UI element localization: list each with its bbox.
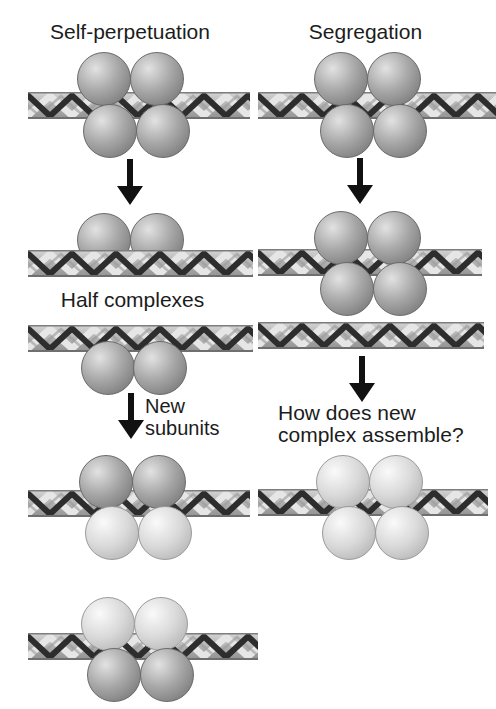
protein-subunit-new: [316, 455, 370, 509]
protein-subunit-old: [133, 341, 187, 395]
protein-subunit-new: [85, 506, 139, 560]
dna-helix-band: [258, 249, 482, 276]
protein-subunit-new: [134, 597, 188, 651]
protein-subunit-old: [373, 104, 427, 158]
protein-subunit-new: [322, 506, 376, 560]
self-perpetuation-title: Self-perpetuation: [10, 21, 250, 43]
down-arrow-icon: [349, 356, 375, 402]
down-arrow-icon: [118, 393, 144, 439]
protein-subunit-old: [87, 648, 141, 702]
protein-subunit-old: [130, 52, 184, 106]
protein-subunit-new: [138, 506, 192, 560]
protein-subunit-old: [314, 52, 368, 106]
dna-helix-band-bare: [258, 322, 484, 349]
down-arrow-icon: [117, 159, 143, 205]
protein-subunit-new: [369, 455, 423, 509]
down-arrow-icon: [347, 158, 373, 204]
protein-subunit-old: [367, 52, 421, 106]
protein-subunit-old: [81, 341, 135, 395]
protein-subunit-old: [132, 455, 186, 509]
protein-subunit-old: [79, 455, 133, 509]
protein-subunit-old: [373, 262, 427, 316]
protein-subunit-old: [367, 211, 421, 265]
segregation-title: Segregation: [258, 21, 473, 43]
figure-epigenetic-inheritance-diagram: Self-perpetuation Segregation Half compl…: [0, 0, 496, 709]
new-subunits-line1: New: [145, 395, 185, 417]
dna-helix-band: [28, 250, 253, 277]
assembly-question-line2: complex assemble?: [278, 423, 464, 446]
assembly-question-line1: How does new: [278, 401, 416, 424]
protein-subunit-new: [81, 597, 135, 651]
protein-subunit-old: [140, 648, 194, 702]
assembly-question-label: How does newcomplex assemble?: [278, 402, 464, 446]
new-subunits-label: Newsubunits: [145, 395, 220, 439]
protein-subunit-new: [375, 506, 429, 560]
new-subunits-line2: subunits: [145, 417, 220, 439]
protein-subunit-old: [314, 211, 368, 265]
half-complexes-label: Half complexes: [35, 289, 230, 311]
protein-subunit-old: [136, 104, 190, 158]
protein-subunit-old: [320, 262, 374, 316]
protein-subunit-old: [77, 52, 131, 106]
protein-subunit-old: [83, 104, 137, 158]
protein-subunit-old: [320, 104, 374, 158]
